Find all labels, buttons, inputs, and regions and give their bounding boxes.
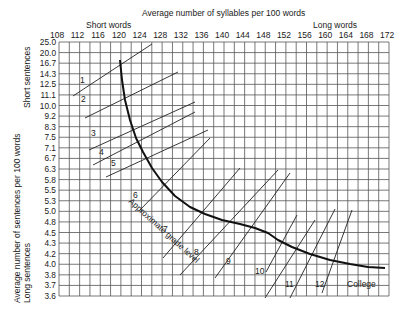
grade-label: College [347, 279, 376, 289]
grade-line [73, 44, 152, 96]
fry-graph-plot: 123456789101112CollegeApproximate grade … [0, 0, 407, 319]
grade-line [93, 112, 195, 165]
grade-line [89, 102, 195, 150]
grade-label: 9 [226, 256, 231, 266]
grade-label: 4 [99, 147, 104, 157]
grade-line [266, 215, 297, 272]
grade-label: 2 [81, 94, 86, 104]
grade-label: 12 [315, 279, 325, 289]
grade-curve [120, 60, 385, 268]
grade-label: 1 [80, 75, 85, 85]
grade-label: 3 [91, 128, 96, 138]
grade-label: 5 [111, 158, 116, 168]
grade-label: 10 [255, 266, 265, 276]
grade-line [140, 138, 210, 210]
grade-label: 11 [285, 279, 294, 289]
